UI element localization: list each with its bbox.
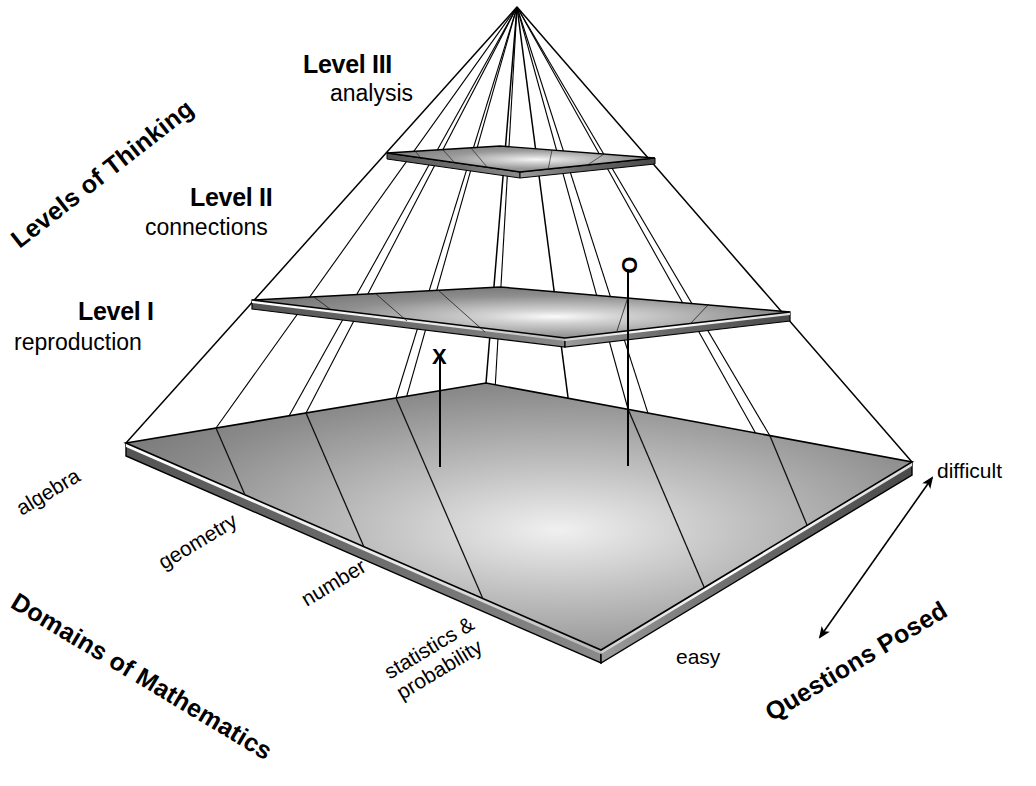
level-1-subtitle: reproduction: [14, 330, 142, 356]
marker-o-icon: O: [616, 256, 642, 273]
level-2-subtitle: connections: [145, 215, 268, 241]
pyramid-diagram: Levels of Thinking Level III analysis Le…: [0, 0, 1036, 786]
axis-tick-difficult: difficult: [937, 459, 1002, 483]
level-1-slab: [126, 383, 912, 663]
level-3-title: Level III: [303, 50, 392, 78]
marker-x-icon: X: [432, 344, 447, 370]
level-3-subtitle: analysis: [330, 81, 413, 107]
level-1-title: Level I: [78, 297, 154, 325]
axis-tick-easy: easy: [676, 645, 720, 669]
level-2-title: Level II: [190, 183, 272, 211]
